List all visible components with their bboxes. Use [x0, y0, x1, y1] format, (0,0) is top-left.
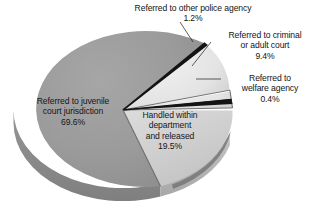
slice-label-criminal-court: Referred to criminal or adult court 9.4%	[212, 30, 318, 61]
slice-label-other-police-agency: Referred to other police agency 1.2%	[98, 3, 288, 24]
pie-chart: Referred to other police agency 1.2% Ref…	[0, 0, 321, 219]
slice-label-welfare-agency: Referred to welfare agency 0.4%	[222, 73, 318, 104]
slice-label-handled-department: Handled within department and released 1…	[124, 110, 216, 152]
slice-label-juvenile-court: Referred to juvenile court jurisdiction …	[14, 96, 132, 127]
